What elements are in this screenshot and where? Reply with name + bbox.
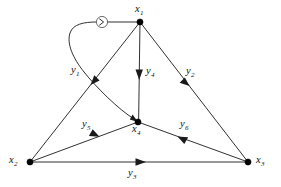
edge-y6-line [138, 122, 248, 162]
edge-y5-arrowhead [89, 129, 100, 136]
edge-label-y5: y5 [82, 119, 90, 130]
edge-y3 [30, 158, 248, 165]
edge-y6-arrowhead [178, 137, 189, 145]
circled-arrow-marker [96, 16, 107, 27]
node-dot-x2[interactable] [27, 159, 33, 165]
edge-y2-line [140, 22, 248, 162]
edge-y4 [136, 22, 143, 122]
edge-y2-arrowhead [180, 78, 190, 86]
node-dot-x3[interactable] [245, 159, 251, 165]
graph-diagram: x1 x2 x3 x4 y1 y2 y3 y4 y5 y6 [0, 0, 281, 187]
edge-label-y1: y1 [71, 65, 79, 76]
edge-y1-arrowhead [91, 75, 100, 85]
edge-curved-loop [69, 16, 140, 122]
edge-y1 [30, 22, 140, 162]
node-label-x2: x2 [9, 155, 17, 166]
edge-label-y3: y3 [128, 168, 136, 179]
edge-y6 [138, 122, 248, 162]
edge-y1-line [30, 22, 140, 162]
edge-y4-arrowhead [136, 70, 143, 81]
edge-label-y2: y2 [186, 66, 194, 77]
node-label-x4: x4 [132, 124, 140, 135]
edge-y3-arrowhead [136, 158, 147, 165]
edge-label-y4: y4 [146, 66, 154, 77]
graph-canvas [0, 0, 281, 187]
edge-y2 [140, 22, 248, 162]
edge-label-y6: y6 [180, 119, 188, 130]
node-label-x3: x3 [256, 155, 264, 166]
node-label-x1: x1 [135, 4, 143, 15]
node-dot-x1[interactable] [137, 19, 143, 25]
